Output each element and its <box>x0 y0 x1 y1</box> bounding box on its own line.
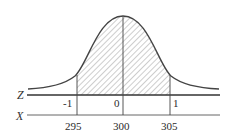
x-axis-label: X <box>15 109 24 123</box>
x-tick-305: 305 <box>161 120 178 132</box>
normal-distribution-chart: Z X -1 0 1 295 300 305 <box>0 0 233 137</box>
z-tick-zero: 0 <box>114 97 120 109</box>
x-tick-300: 300 <box>113 120 130 132</box>
z-tick-minus-one: -1 <box>63 97 72 109</box>
z-tick-one: 1 <box>173 97 179 109</box>
x-tick-295: 295 <box>65 120 82 132</box>
shaded-area <box>28 16 219 95</box>
z-axis-label: Z <box>17 88 24 102</box>
